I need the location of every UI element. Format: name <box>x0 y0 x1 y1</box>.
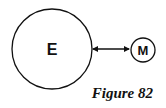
earth-label: E <box>47 41 58 58</box>
moon-label: M <box>138 43 149 58</box>
node-earth: E <box>12 9 92 89</box>
node-moon: M <box>131 38 155 62</box>
diagram-canvas: E M Figure 82 <box>0 0 166 108</box>
figure-caption: Figure 82 <box>91 85 154 101</box>
